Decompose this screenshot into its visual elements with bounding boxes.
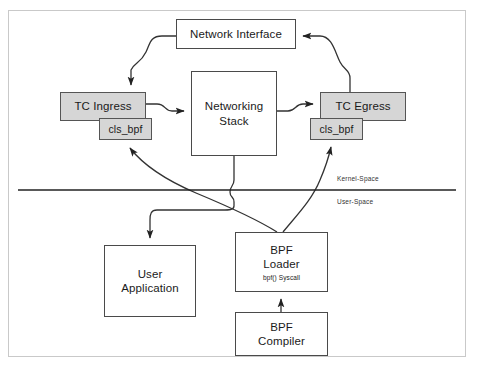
node-user-application-label-line2: Application	[121, 281, 178, 295]
node-bpf-loader-label-line2: Loader	[263, 257, 299, 271]
node-bpf-loader-label-line1: BPF	[270, 243, 293, 257]
edge-network-interface-to-tc-ingress	[131, 36, 176, 85]
diagram-canvas: Network Interface TC Ingress cls_bpf Net…	[0, 0, 480, 367]
node-cls-bpf-egress: cls_bpf	[310, 118, 363, 140]
user-space-label: User-Space	[337, 198, 373, 205]
node-bpf-compiler-label-line2: Compiler	[258, 334, 305, 348]
node-cls-bpf-ingress-label: cls_bpf	[109, 123, 143, 136]
node-tc-ingress-label: TC Ingress	[74, 99, 131, 113]
node-bpf-compiler: BPF Compiler	[235, 312, 328, 356]
edge-networking-stack-to-user-application	[150, 156, 234, 238]
node-network-interface-label: Network Interface	[190, 27, 282, 41]
kernel-space-label: Kernel-Space	[337, 175, 379, 182]
node-tc-egress: TC Egress	[320, 92, 406, 121]
node-cls-bpf-egress-label: cls_bpf	[320, 123, 354, 136]
node-bpf-loader-sublabel: bpf() Syscall	[263, 274, 300, 282]
node-user-application-label-line1: User	[138, 267, 163, 281]
node-tc-egress-label: TC Egress	[335, 99, 390, 113]
node-network-interface: Network Interface	[176, 19, 296, 49]
edge-tc-egress-to-network-interface	[303, 36, 350, 92]
node-user-application: User Application	[104, 245, 196, 317]
edge-networking-stack-to-tc-egress	[277, 104, 313, 111]
node-bpf-compiler-label-line1: BPF	[270, 320, 293, 334]
node-networking-stack-label-line1: Networking	[205, 99, 264, 113]
node-networking-stack: Networking Stack	[191, 71, 277, 156]
edge-tc-ingress-to-networking-stack	[146, 104, 184, 111]
node-cls-bpf-ingress: cls_bpf	[99, 118, 152, 140]
node-networking-stack-label-line2: Stack	[219, 114, 248, 128]
node-bpf-loader: BPF Loader bpf() Syscall	[235, 232, 328, 292]
node-tc-ingress: TC Ingress	[60, 92, 146, 121]
